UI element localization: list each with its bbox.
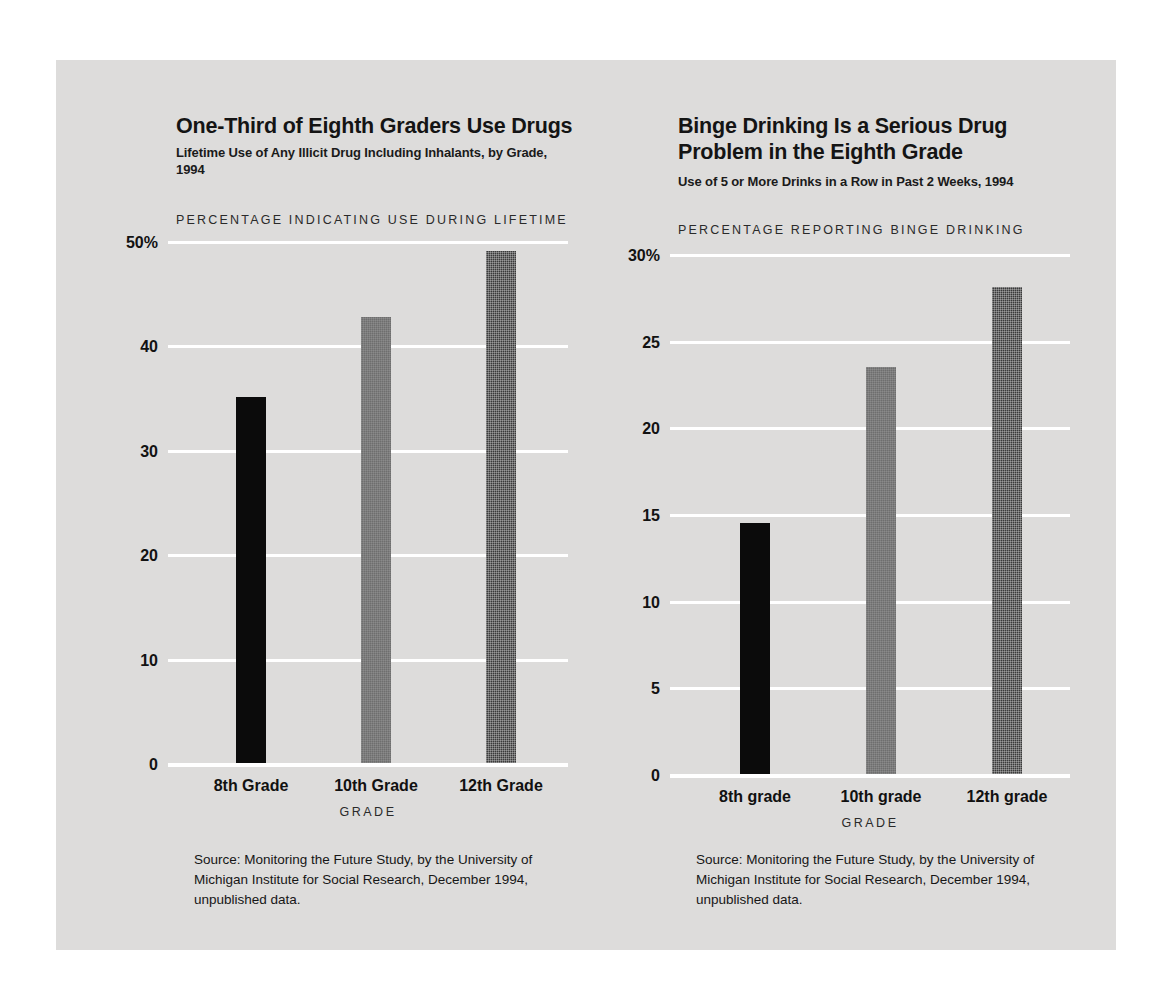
y-axis-tick-label: 5 xyxy=(651,680,660,698)
x-axis-category-label: 8th Grade xyxy=(214,777,289,795)
x-axis-category-label: 10th grade xyxy=(841,788,922,806)
chart-source-note: Source: Monitoring the Future Study, by … xyxy=(696,850,1076,910)
chart-title: Binge Drinking Is a Serious Drug Problem… xyxy=(678,113,1008,165)
y-axis-tick-label: 40 xyxy=(140,338,158,356)
page-root: One-Third of Eighth Graders Use Drugs Li… xyxy=(0,0,1165,996)
y-axis-tick-label: 10 xyxy=(140,652,158,670)
y-axis-tick-label: 0 xyxy=(651,767,660,785)
bar-12th-grade xyxy=(992,287,1022,774)
bar-10th-grade xyxy=(866,367,896,774)
x-axis-category-label: 12th grade xyxy=(967,788,1048,806)
y-axis-tick-label: 20 xyxy=(642,420,660,438)
y-axis-tick-label: 25 xyxy=(642,334,660,352)
x-axis-category-label: 12th Grade xyxy=(459,777,543,795)
chart-title: One-Third of Eighth Graders Use Drugs xyxy=(176,113,606,139)
x-axis-title: GRADE xyxy=(340,805,397,819)
x-axis-category-label: 8th grade xyxy=(719,788,791,806)
gridline xyxy=(168,241,568,244)
plot-area: 051015202530%8th grade10th grade12th gra… xyxy=(608,254,1108,779)
axis-baseline xyxy=(670,774,1070,778)
x-axis-title: GRADE xyxy=(842,816,899,830)
chart-binge-drinking: Binge Drinking Is a Serious Drug Problem… xyxy=(608,60,1108,950)
y-axis-tick-label: 10 xyxy=(642,594,660,612)
y-axis-caption: PERCENTAGE REPORTING BINGE DRINKING xyxy=(678,223,1025,237)
plot-area: 01020304050%8th Grade10th Grade12th Grad… xyxy=(106,241,606,766)
bar-12th-grade xyxy=(486,251,516,763)
chart-subtitle: Use of 5 or More Drinks in a Row in Past… xyxy=(678,173,1078,190)
figure-panel: One-Third of Eighth Graders Use Drugs Li… xyxy=(56,60,1116,950)
bar-10th-grade xyxy=(361,317,391,763)
y-axis-tick-label: 20 xyxy=(140,547,158,565)
y-axis-caption: PERCENTAGE INDICATING USE DURING LIFETIM… xyxy=(176,213,568,227)
gridline xyxy=(670,254,1070,257)
chart-illicit-drug-use: One-Third of Eighth Graders Use Drugs Li… xyxy=(106,60,606,950)
x-axis-category-label: 10th Grade xyxy=(334,777,418,795)
y-axis-tick-label: 50% xyxy=(126,234,158,252)
bar-8th-grade xyxy=(236,397,266,763)
y-axis-tick-label: 30% xyxy=(628,247,660,265)
chart-subtitle: Lifetime Use of Any Illicit Drug Includi… xyxy=(176,144,576,178)
y-axis-tick-label: 0 xyxy=(149,756,158,774)
y-axis-tick-label: 15 xyxy=(642,507,660,525)
y-axis-tick-label: 30 xyxy=(140,443,158,461)
chart-source-note: Source: Monitoring the Future Study, by … xyxy=(194,850,574,910)
axis-baseline xyxy=(168,763,568,767)
bar-8th-grade xyxy=(740,523,770,774)
